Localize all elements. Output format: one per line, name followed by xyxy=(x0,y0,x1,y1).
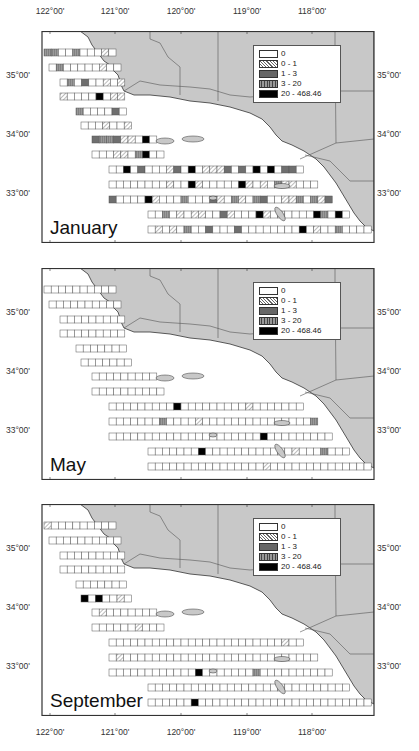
legend-label: 0 - 1 xyxy=(281,59,297,69)
legend-swatch-vertical-grid xyxy=(259,80,278,88)
month-label: May xyxy=(50,454,86,476)
x-tick-label: 122°00' xyxy=(36,6,65,16)
legend: 00 - 11 - 33 - 2020 - 468.46 xyxy=(253,45,341,103)
legend-item: 3 - 20 xyxy=(259,316,335,326)
legend-item: 0 xyxy=(259,522,335,532)
y-tick-label-left: 35°00' xyxy=(6,70,30,80)
y-tick-label-left: 33°00' xyxy=(6,425,30,435)
x-tick-label: 120°00' xyxy=(167,6,196,16)
x-tick-label: 121°00' xyxy=(101,727,130,737)
legend-item: 3 - 20 xyxy=(259,552,335,562)
map-svg xyxy=(0,31,419,243)
legend-swatch-diagonal-hatch xyxy=(259,533,278,541)
legend-swatch-solid-black xyxy=(259,90,278,98)
legend-item: 1 - 3 xyxy=(259,306,335,316)
map-svg xyxy=(0,268,419,480)
legend-swatch-dark-crosshatch xyxy=(259,543,278,551)
legend-item: 0 - 1 xyxy=(259,296,335,306)
x-axis-top: 122°00' 121°00' 120°00' 119°00' 118°00' xyxy=(0,6,419,20)
legend-item: 20 - 468.46 xyxy=(259,89,335,99)
x-tick-label: 120°00' xyxy=(167,727,196,737)
legend-label: 3 - 20 xyxy=(281,79,301,89)
legend-swatch-vertical-grid xyxy=(259,317,278,325)
legend-label: 0 xyxy=(281,286,285,296)
y-tick-label-left: 34°00' xyxy=(6,366,30,376)
y-tick-label-right: 33°00' xyxy=(377,425,401,435)
y-tick-label-right: 33°00' xyxy=(377,188,401,198)
map-panel-january: 35°00' 34°00' 33°00' 35°00' 34°00' 33°00… xyxy=(0,31,419,243)
legend-label: 0 - 1 xyxy=(281,532,297,542)
legend-item: 1 - 3 xyxy=(259,69,335,79)
y-tick-label-left: 35°00' xyxy=(6,543,30,553)
y-tick-label-right: 34°00' xyxy=(377,602,401,612)
y-tick-label-left: 33°00' xyxy=(6,661,30,671)
legend-label: 0 - 1 xyxy=(281,296,297,306)
y-tick-label-left: 33°00' xyxy=(6,188,30,198)
x-tick-label: 118°00' xyxy=(298,6,326,16)
legend-item: 0 - 1 xyxy=(259,59,335,69)
legend-label: 20 - 468.46 xyxy=(281,562,321,572)
x-tick-label: 119°00' xyxy=(233,6,261,16)
y-tick-label-right: 34°00' xyxy=(377,129,401,139)
legend-label: 0 xyxy=(281,49,285,59)
y-tick-label-right: 35°00' xyxy=(377,307,401,317)
legend-swatch-dark-crosshatch xyxy=(259,70,278,78)
x-tick-label: 122°00' xyxy=(36,727,65,737)
legend-swatch-vertical-grid xyxy=(259,553,278,561)
legend-label: 20 - 468.46 xyxy=(281,326,321,336)
legend-item: 20 - 468.46 xyxy=(259,326,335,336)
legend-item: 20 - 468.46 xyxy=(259,562,335,572)
legend-item: 0 xyxy=(259,49,335,59)
legend-label: 20 - 468.46 xyxy=(281,89,321,99)
x-tick-label: 121°00' xyxy=(101,6,130,16)
legend-label: 1 - 3 xyxy=(281,306,297,316)
legend: 00 - 11 - 33 - 2020 - 468.46 xyxy=(253,282,341,340)
map-svg xyxy=(0,504,419,716)
y-tick-label-right: 33°00' xyxy=(377,661,401,671)
legend-label: 1 - 3 xyxy=(281,69,297,79)
month-label: September xyxy=(50,690,143,712)
y-tick-label-left: 34°00' xyxy=(6,129,30,139)
legend-swatch-empty xyxy=(259,50,278,58)
legend-label: 3 - 20 xyxy=(281,552,301,562)
legend-item: 0 xyxy=(259,286,335,296)
map-panel-september: 35°00' 34°00' 33°00' 35°00' 34°00' 33°00… xyxy=(0,504,419,716)
y-tick-label-left: 34°00' xyxy=(6,602,30,612)
legend-swatch-diagonal-hatch xyxy=(259,60,278,68)
legend-item: 3 - 20 xyxy=(259,79,335,89)
legend-item: 1 - 3 xyxy=(259,542,335,552)
map-panel-may: 35°00' 34°00' 33°00' 35°00' 34°00' 33°00… xyxy=(0,268,419,480)
y-tick-label-right: 35°00' xyxy=(377,543,401,553)
legend-swatch-diagonal-hatch xyxy=(259,297,278,305)
legend-swatch-solid-black xyxy=(259,563,278,571)
y-tick-label-left: 35°00' xyxy=(6,307,30,317)
legend-label: 3 - 20 xyxy=(281,316,301,326)
legend-swatch-empty xyxy=(259,523,278,531)
x-tick-label: 119°00' xyxy=(233,727,261,737)
legend: 00 - 11 - 33 - 2020 - 468.46 xyxy=(253,518,341,576)
y-tick-label-right: 34°00' xyxy=(377,366,401,376)
month-label: January xyxy=(50,217,118,239)
legend-label: 1 - 3 xyxy=(281,542,297,552)
y-tick-label-right: 35°00' xyxy=(377,70,401,80)
legend-swatch-empty xyxy=(259,287,278,295)
legend-item: 0 - 1 xyxy=(259,532,335,542)
legend-label: 0 xyxy=(281,522,285,532)
x-tick-label: 118°00' xyxy=(298,727,326,737)
x-axis-bottom: 122°00' 121°00' 120°00' 119°00' 118°00' xyxy=(0,727,419,741)
legend-swatch-dark-crosshatch xyxy=(259,307,278,315)
legend-swatch-solid-black xyxy=(259,327,278,335)
